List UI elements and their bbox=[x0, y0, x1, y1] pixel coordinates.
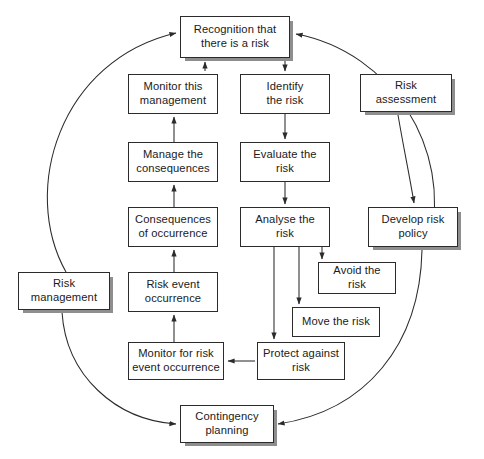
node-label: Develop risk policy bbox=[379, 213, 448, 240]
node-recognition[interactable]: Recognition that there is a risk bbox=[180, 16, 290, 58]
node-monitor-for-risk-event-occurrence[interactable]: Monitor for risk event occurrence bbox=[128, 342, 224, 380]
node-risk-event-occurrence[interactable]: Risk event occurrence bbox=[128, 272, 218, 312]
node-avoid-the-risk[interactable]: Avoid the risk bbox=[318, 262, 396, 294]
node-contingency-planning[interactable]: Contingency planning bbox=[180, 405, 274, 443]
connector-risk-assessment-develop-policy bbox=[398, 115, 414, 203]
node-label: Identify the risk bbox=[264, 80, 307, 107]
node-label: Risk management bbox=[28, 277, 100, 304]
node-consequences-of-occurrence[interactable]: Consequences of occurrence bbox=[128, 207, 218, 247]
node-label: Contingency planning bbox=[192, 410, 261, 437]
node-label: Risk event occurrence bbox=[142, 278, 204, 305]
node-monitor-this-management[interactable]: Monitor this management bbox=[128, 74, 218, 114]
node-label: Protect against risk bbox=[260, 347, 342, 374]
node-risk-assessment[interactable]: Risk assessment bbox=[360, 74, 452, 112]
node-protect-against-risk[interactable]: Protect against risk bbox=[257, 342, 345, 380]
node-label: Recognition that there is a risk bbox=[191, 23, 279, 50]
node-label: Move the risk bbox=[299, 315, 373, 329]
node-analyse-the-risk[interactable]: Analyse the risk bbox=[240, 207, 330, 247]
node-label: Monitor this management bbox=[137, 80, 209, 107]
node-label: Consequences of occurrence bbox=[132, 213, 214, 240]
node-label: Risk assessment bbox=[373, 79, 440, 106]
node-label: Evaluate the risk bbox=[250, 148, 319, 175]
risk-management-flowchart: Recognition that there is a risk Monitor… bbox=[0, 0, 484, 459]
node-risk-management[interactable]: Risk management bbox=[18, 272, 110, 310]
node-move-the-risk[interactable]: Move the risk bbox=[292, 307, 380, 337]
node-label: Avoid the risk bbox=[330, 264, 383, 291]
node-label: Analyse the risk bbox=[252, 213, 318, 240]
node-develop-risk-policy[interactable]: Develop risk policy bbox=[368, 207, 458, 247]
node-manage-the-consequences[interactable]: Manage the consequences bbox=[128, 142, 218, 182]
node-evaluate-the-risk[interactable]: Evaluate the risk bbox=[240, 142, 330, 182]
node-label: Monitor for risk event occurrence bbox=[129, 347, 222, 374]
node-label: Manage the consequences bbox=[133, 148, 212, 175]
node-identify-the-risk[interactable]: Identify the risk bbox=[240, 74, 330, 114]
